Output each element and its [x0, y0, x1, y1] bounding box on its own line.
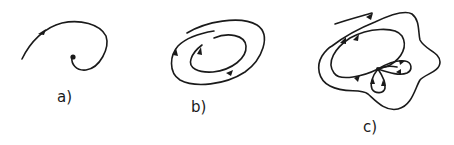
phase-portrait-figure: a) b) c) [0, 0, 454, 145]
saddle-point-icon [376, 67, 380, 71]
focus-point-icon [70, 54, 75, 59]
spiral-trajectory [22, 22, 107, 70]
panel-label-a: a) [57, 88, 72, 106]
panel-c: c) [319, 13, 440, 136]
limit-cycle-ellipse [331, 29, 404, 77]
wavy-outer-trajectory [319, 13, 440, 110]
arrow-icon [38, 29, 46, 35]
outer-orbit [172, 20, 265, 84]
panel-a: a) [22, 22, 107, 106]
panel-label-b: b) [191, 98, 206, 116]
arrow-icon [226, 70, 233, 76]
entering-trajectory [335, 13, 372, 24]
panel-b: b) [172, 20, 265, 116]
panel-label-c: c) [363, 118, 377, 136]
